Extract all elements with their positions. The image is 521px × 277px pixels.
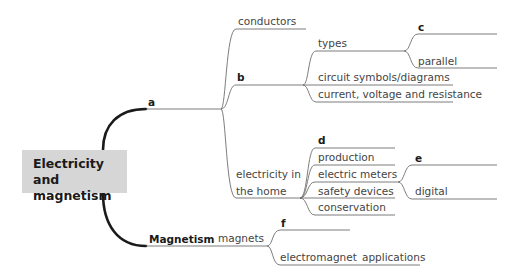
label-parallel: parallel	[418, 55, 457, 67]
label-a: a	[148, 96, 155, 108]
label-electric-meters: electric meters	[318, 168, 397, 180]
label-applications: applications	[362, 251, 425, 263]
central-topic-line1: Electricity and	[33, 156, 128, 188]
label-electricity-home-2: the home	[236, 185, 286, 197]
label-c: c	[418, 21, 424, 33]
thick-branch-a	[103, 109, 146, 150]
label-types: types	[318, 37, 347, 49]
label-magnetism: Magnetism	[149, 233, 214, 245]
label-d: d	[318, 134, 326, 146]
label-current-voltage: current, voltage and resistance	[318, 88, 482, 100]
central-topic: Electricity and magnetism	[33, 156, 128, 204]
label-conservation: conservation	[318, 201, 386, 213]
label-conductors: conductors	[238, 15, 296, 27]
label-f: f	[281, 217, 286, 229]
label-safety-devices: safety devices	[318, 185, 394, 197]
label-circuit-symbols: circuit symbols/diagrams	[318, 71, 450, 83]
central-topic-line2: magnetism	[33, 188, 128, 204]
label-e: e	[415, 152, 422, 164]
label-electricity-home-1: electricity in	[236, 168, 301, 180]
label-digital: digital	[415, 185, 448, 197]
label-b: b	[237, 71, 245, 83]
label-production: production	[318, 151, 374, 163]
label-magnets: magnets	[218, 232, 264, 244]
label-electromagnet: electromagnet	[280, 251, 357, 263]
